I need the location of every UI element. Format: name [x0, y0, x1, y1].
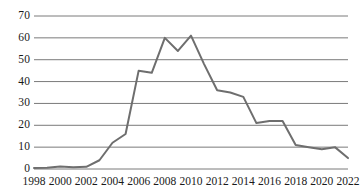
x-axis-tick-label: 2022 [328, 176, 362, 188]
y-axis-tick-label: 60 [18, 32, 30, 44]
y-axis-tick-label: 0 [24, 163, 30, 175]
data-line-series-1 [34, 36, 348, 168]
y-axis-tick-label: 40 [18, 76, 30, 88]
line-chart: 010203040506070 199820002002200420062008… [0, 0, 362, 195]
y-axis-tick-label: 70 [18, 10, 30, 22]
data-line-group [34, 36, 348, 168]
y-axis-tick-label: 50 [18, 54, 30, 66]
y-axis-tick-label: 10 [18, 141, 30, 153]
y-axis-tick-label: 20 [18, 119, 30, 131]
y-axis-tick-label: 30 [18, 97, 30, 109]
chart-plot-area [0, 0, 362, 195]
